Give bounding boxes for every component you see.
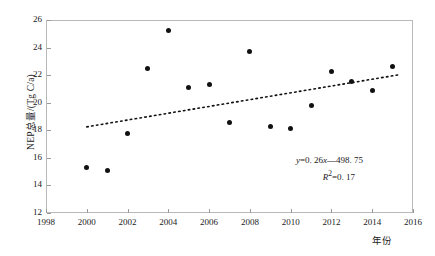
scatter-point [207,82,212,87]
x-tick-label: 2006 [189,217,229,227]
x-axis-title: 年份 [372,233,392,247]
x-tick-mark [372,209,373,213]
y-tick-label: 18 [24,124,42,134]
x-tick-mark [209,209,210,213]
plot-area [46,20,413,213]
x-tick-mark [87,209,88,213]
x-tick-label: 2014 [352,217,392,227]
y-tick-mark [47,185,51,186]
x-tick-label: 2010 [271,217,311,227]
equation-coefficient: =0. 26 [300,155,323,165]
y-tick-mark [47,213,51,214]
chart-figure: NEP总量/(Tg C/a) 年份 1214161820222426 19982… [0,0,435,256]
x-tick-label: 2016 [393,217,433,227]
x-tick-mark [168,209,169,213]
x-tick-mark [331,209,332,213]
x-tick-mark [413,209,414,213]
x-tick-mark [291,209,292,213]
regression-annotation: y=0. 26x—498. 75 R2=0. 17 [296,153,363,184]
y-tick-label: 24 [24,42,42,52]
x-tick-label: 1998 [26,217,66,227]
equation-intercept: —498. 75 [327,155,363,165]
x-tick-mark [128,209,129,213]
scatter-point [247,49,252,54]
x-tick-mark [250,209,251,213]
y-axis-title: NEP总量/(Tg C/a) [23,37,37,187]
x-tick-label: 2008 [230,217,270,227]
x-tick-mark [46,209,47,213]
scatter-point [309,103,314,108]
y-tick-label: 20 [24,97,42,107]
scatter-point [329,69,334,74]
y-tick-mark [47,158,51,159]
r-squared-line: R2=0. 17 [296,167,363,184]
y-tick-mark [47,20,51,21]
x-tick-label: 2004 [148,217,188,227]
y-tick-label: 12 [24,207,42,217]
y-tick-mark [47,103,51,104]
y-tick-label: 14 [24,179,42,189]
scatter-point [125,131,130,136]
y-tick-label: 26 [24,14,42,24]
y-tick-label: 16 [24,152,42,162]
y-tick-mark [47,75,51,76]
y-tick-mark [47,130,51,131]
y-tick-label: 22 [24,69,42,79]
x-tick-label: 2002 [108,217,148,227]
y-tick-mark [47,48,51,49]
scatter-point [166,28,171,33]
r-squared-value: =0. 17 [332,172,355,182]
x-tick-label: 2000 [67,217,107,227]
x-tick-label: 2012 [311,217,351,227]
regression-equation: y=0. 26x—498. 75 [296,153,363,167]
scatter-point [227,120,232,125]
